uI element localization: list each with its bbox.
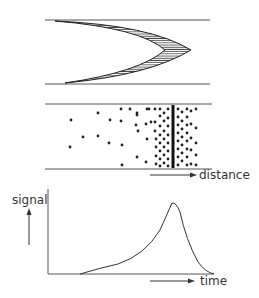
particle-dot <box>181 152 184 155</box>
particle-dot <box>167 150 170 153</box>
particle-dot <box>167 165 170 168</box>
particle-dot <box>167 117 170 120</box>
particle-dot <box>190 123 193 126</box>
particle-dot <box>163 112 166 115</box>
particle-dot <box>145 161 148 164</box>
particle-dot <box>163 154 166 157</box>
particle-dot <box>159 142 162 145</box>
particle-dot <box>148 108 151 111</box>
particle-dot <box>82 136 85 139</box>
particle-dot <box>159 165 162 168</box>
particle-dot <box>97 112 100 115</box>
particle-dot <box>177 124 180 127</box>
particle-dot <box>155 155 158 158</box>
signal-curve <box>80 203 214 274</box>
particle-dot <box>120 120 123 123</box>
particle-dot <box>186 108 189 111</box>
particle-dot <box>121 144 124 147</box>
particle-dots <box>69 108 198 168</box>
particle-dot <box>195 127 198 130</box>
particle-dot <box>155 146 158 149</box>
particle-dot <box>97 135 100 138</box>
particle-dot <box>159 158 162 161</box>
particle-dot <box>186 148 189 151</box>
chevron-band <box>55 21 191 83</box>
signal-arrowhead-icon <box>27 208 32 215</box>
particle-dot <box>129 108 132 111</box>
particle-dot <box>159 150 162 153</box>
particle-dot <box>154 121 157 124</box>
particle-dot <box>181 120 184 123</box>
particle-dot <box>181 144 184 147</box>
top-panel <box>45 20 210 84</box>
particle-dot <box>136 156 139 159</box>
signal-label: signal <box>12 193 48 207</box>
particle-dot <box>190 137 193 140</box>
particle-dot <box>186 132 189 135</box>
middle-panel: distance <box>45 104 250 182</box>
distance-label: distance <box>199 168 250 182</box>
particle-dot <box>195 164 198 167</box>
particle-dot <box>190 110 193 113</box>
particle-dot <box>70 119 73 122</box>
particle-dot <box>121 164 124 167</box>
particle-dot <box>150 121 153 124</box>
particle-dot <box>177 148 180 151</box>
time-label: time <box>200 274 227 288</box>
particle-dot <box>186 156 189 159</box>
particle-dot <box>163 146 166 149</box>
particle-dot <box>163 120 166 123</box>
particle-dot <box>154 130 157 133</box>
particle-dot <box>109 119 112 122</box>
particle-dot <box>145 123 148 126</box>
particle-dot <box>137 130 140 133</box>
particle-dot <box>146 138 149 141</box>
particle-dot <box>163 138 166 141</box>
particle-dot <box>159 108 162 111</box>
particle-dot <box>186 124 189 127</box>
particle-dot <box>177 140 180 143</box>
particle-dot <box>167 108 170 111</box>
particle-dot <box>181 128 184 131</box>
diagram-canvas: distance signal time <box>0 0 259 298</box>
particle-dot <box>167 142 170 145</box>
particle-dot <box>195 142 198 145</box>
particle-dot <box>167 125 170 128</box>
particle-dot <box>190 149 193 152</box>
particle-dot <box>177 116 180 119</box>
particle-dot <box>177 156 180 159</box>
particle-dot <box>135 124 138 127</box>
particle-dot <box>159 134 162 137</box>
particle-dot <box>69 146 72 149</box>
distance-arrowhead-icon <box>190 173 197 178</box>
particle-dot <box>177 164 180 167</box>
particle-dot <box>167 158 170 161</box>
bottom-panel: signal time <box>12 189 227 288</box>
particle-dot <box>181 160 184 163</box>
particle-dot <box>186 164 189 167</box>
particle-dot <box>155 163 158 166</box>
particle-dot <box>195 108 198 111</box>
particle-dot <box>120 108 123 111</box>
particle-dot <box>136 114 139 117</box>
particle-dot <box>186 140 189 143</box>
particle-dot <box>159 115 162 118</box>
particle-dot <box>181 111 184 114</box>
particle-dot <box>154 108 157 111</box>
particle-dot <box>159 125 162 128</box>
particle-dot <box>195 154 198 157</box>
particle-dot <box>190 163 193 166</box>
particle-dot <box>163 162 166 165</box>
particle-dot <box>167 134 170 137</box>
particle-dot <box>186 116 189 119</box>
particle-dot <box>163 130 166 133</box>
particle-dot <box>177 132 180 135</box>
particle-dot <box>177 108 180 111</box>
time-arrowhead-icon <box>188 279 195 284</box>
particle-dot <box>181 136 184 139</box>
particle-dot <box>108 142 111 145</box>
particle-dot <box>155 138 158 141</box>
